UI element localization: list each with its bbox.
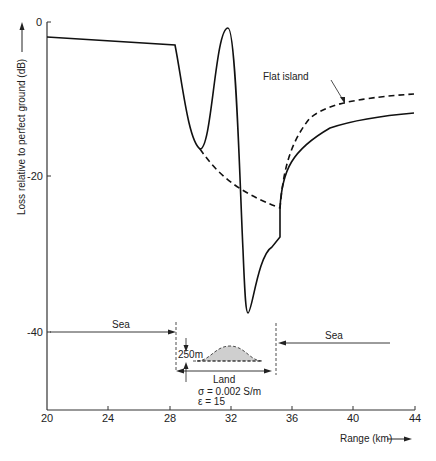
x-tick-label: 44 xyxy=(409,412,421,424)
x-tick-label: 36 xyxy=(286,412,298,424)
y-axis-label: Loss relative to perfect ground (dB) xyxy=(16,59,27,215)
sea-right-label: Sea xyxy=(325,330,343,341)
land-arrow-icon xyxy=(176,369,272,374)
land-label: Land xyxy=(213,374,235,385)
flat-island-label: Flat island xyxy=(263,71,309,82)
y-axis-arrow-icon xyxy=(20,22,25,52)
y-tick-label: -40 xyxy=(27,326,43,338)
x-tick-label: 28 xyxy=(164,412,176,424)
chart: 0 -20 -40 20 24 28 32 36 40 44 Range (km… xyxy=(0,0,436,461)
y-axis: 0 -20 -40 xyxy=(27,16,51,410)
x-tick-label: 40 xyxy=(347,412,359,424)
x-tick-label: 20 xyxy=(41,412,53,424)
sea-right-arrow-icon xyxy=(278,341,390,346)
series-dashed-line xyxy=(200,94,414,208)
sea-left-arrow-icon xyxy=(50,330,176,335)
y-tick-label: 0 xyxy=(36,16,42,28)
epsilon-label: ε = 15 xyxy=(198,396,225,407)
x-axis-label: Range (km) xyxy=(340,433,392,444)
sea-left-label: Sea xyxy=(112,319,130,330)
x-axis: 20 24 28 32 36 40 44 xyxy=(41,406,421,424)
height-label: 250m xyxy=(178,349,203,360)
x-tick-label: 32 xyxy=(225,412,237,424)
y-tick-label: -20 xyxy=(27,170,43,182)
height-arrows-icon xyxy=(184,338,189,382)
flat-island-arrow-icon xyxy=(331,80,345,104)
hill-shape xyxy=(197,346,262,361)
x-tick-label: 24 xyxy=(102,412,114,424)
series-solid-line xyxy=(47,28,414,313)
